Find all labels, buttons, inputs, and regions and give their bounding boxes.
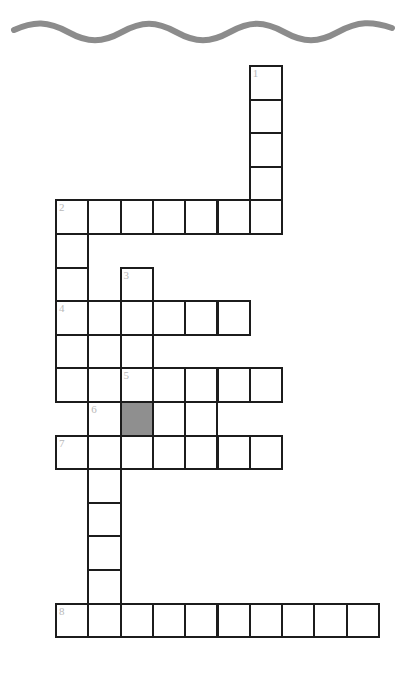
crossword-cell[interactable] (55, 334, 89, 370)
crossword-cell[interactable] (55, 233, 89, 269)
cell-number-1: 1 (253, 67, 259, 80)
crossword-cell[interactable] (87, 199, 121, 235)
crossword-cell[interactable]: 7 (55, 435, 89, 471)
crossword-cell[interactable] (120, 300, 154, 336)
cell-number-5: 5 (124, 369, 130, 382)
crossword-cell[interactable] (87, 367, 121, 403)
crossword-cell[interactable] (87, 535, 121, 571)
crossword-cell-shaded[interactable] (120, 401, 154, 437)
crossword-cell[interactable] (87, 334, 121, 370)
crossword-cell[interactable] (87, 603, 121, 639)
crossword-cell[interactable] (217, 367, 251, 403)
crossword-cell[interactable] (184, 603, 218, 639)
crossword-cell[interactable] (184, 300, 218, 336)
crossword-cell[interactable] (249, 166, 283, 202)
cell-number-8: 8 (59, 605, 65, 618)
crossword-cell[interactable]: 3 (120, 267, 154, 303)
crossword-cell[interactable] (55, 367, 89, 403)
crossword-cell[interactable] (249, 99, 283, 135)
crossword-grid[interactable]: 12345678 (0, 0, 406, 688)
cell-number-2: 2 (59, 201, 65, 214)
crossword-cell[interactable] (87, 300, 121, 336)
crossword-cell[interactable] (217, 300, 251, 336)
crossword-cell[interactable] (217, 603, 251, 639)
crossword-cell[interactable] (249, 603, 283, 639)
crossword-cell[interactable] (249, 199, 283, 235)
crossword-cell[interactable]: 5 (120, 367, 154, 403)
cell-number-4: 4 (59, 302, 65, 315)
crossword-cell[interactable]: 2 (55, 199, 89, 235)
crossword-cell[interactable] (152, 435, 186, 471)
crossword-cell[interactable] (120, 603, 154, 639)
crossword-cell[interactable] (87, 569, 121, 605)
crossword-cell[interactable]: 1 (249, 65, 283, 101)
crossword-cell[interactable] (217, 199, 251, 235)
crossword-cell[interactable] (120, 199, 154, 235)
cell-number-3: 3 (124, 269, 130, 282)
crossword-cell[interactable] (152, 199, 186, 235)
crossword-cell[interactable] (249, 435, 283, 471)
crossword-cell[interactable] (55, 267, 89, 303)
crossword-cell[interactable] (249, 132, 283, 168)
crossword-cell[interactable] (184, 367, 218, 403)
crossword-cell[interactable]: 4 (55, 300, 89, 336)
crossword-cell[interactable] (313, 603, 347, 639)
cell-number-6: 6 (91, 403, 97, 416)
crossword-cell[interactable] (152, 300, 186, 336)
crossword-cell[interactable]: 6 (87, 401, 121, 437)
crossword-cell[interactable] (152, 367, 186, 403)
crossword-cell[interactable]: 8 (55, 603, 89, 639)
crossword-cell[interactable] (152, 603, 186, 639)
crossword-cell[interactable] (281, 603, 315, 639)
crossword-cell[interactable] (217, 435, 251, 471)
crossword-cell[interactable] (184, 435, 218, 471)
crossword-cell[interactable] (87, 502, 121, 538)
crossword-cell[interactable] (249, 367, 283, 403)
crossword-cell[interactable] (184, 199, 218, 235)
crossword-cell[interactable] (184, 401, 218, 437)
crossword-cell[interactable] (346, 603, 380, 639)
crossword-cell[interactable] (120, 334, 154, 370)
crossword-puzzle: 12345678 (0, 0, 406, 688)
crossword-cell[interactable] (87, 435, 121, 471)
crossword-cell[interactable] (120, 435, 154, 471)
cell-number-7: 7 (59, 437, 65, 450)
crossword-cell[interactable] (87, 468, 121, 504)
crossword-cell[interactable] (152, 401, 186, 437)
